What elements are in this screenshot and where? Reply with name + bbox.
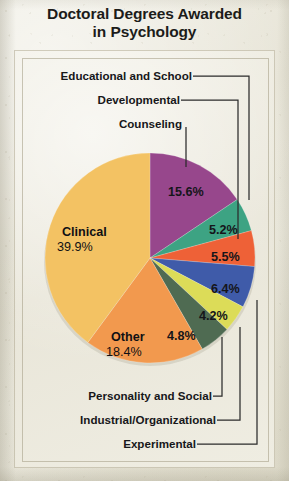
slice-label-educational-value: 5.2%: [209, 224, 238, 237]
figure-pie-chart: Doctoral Degrees Awarded in Psychology: [0, 0, 289, 481]
callout-label-industrial-organizational: Industrial/Organizational: [30, 414, 216, 426]
slice-label-other-value: 18.4%: [106, 345, 142, 359]
slice-label-personality-value: 4.8%: [167, 330, 196, 343]
slice-label-developmental-value: 5.5%: [211, 251, 240, 264]
slice-label-experimental-value: 6.4%: [211, 283, 240, 296]
slice-label-clinical-name: Clinical: [62, 225, 107, 239]
callout-label-developmental: Developmental: [36, 94, 180, 106]
slice-label-clinical-value: 39.9%: [57, 240, 93, 254]
callout-label-counseling: Counseling: [36, 118, 182, 130]
slice-label-other-name: Other: [111, 330, 145, 344]
callout-label-experimental: Experimental: [80, 438, 196, 450]
leader-line-industrial-organizational: [217, 327, 240, 420]
callout-label-personality-and-social: Personality and Social: [56, 390, 212, 402]
callout-label-educational-and-school: Educational and School: [36, 70, 192, 82]
leader-line-personality-and-social: [213, 337, 222, 396]
slice-label-industrial-value: 4.2%: [199, 310, 228, 323]
slice-label-counseling-value: 15.6%: [168, 186, 204, 199]
